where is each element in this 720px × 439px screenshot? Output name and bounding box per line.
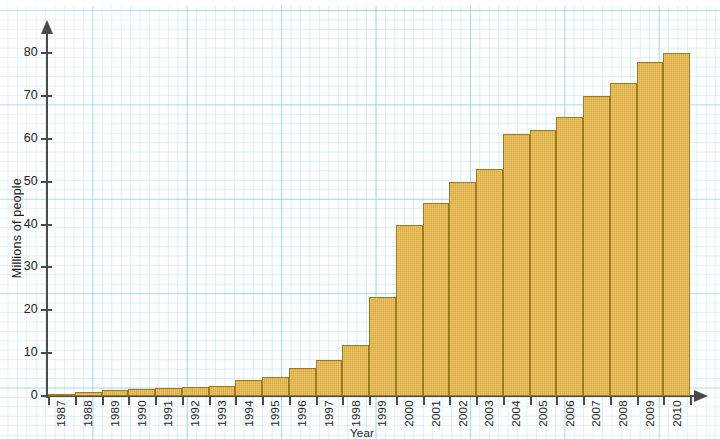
x-tick-label-1993: 1993	[216, 400, 228, 427]
bar-2000	[396, 225, 423, 397]
x-tick-2003	[476, 396, 478, 405]
y-axis-line	[46, 32, 48, 398]
bar-1992	[182, 387, 209, 396]
bar-1997	[316, 360, 343, 396]
y-tick-10	[41, 352, 52, 354]
x-tick-label-2001: 2001	[430, 400, 442, 427]
y-axis-arrow-icon	[41, 20, 53, 34]
y-tick-40	[41, 224, 52, 226]
bar-chart: Millions of people Year 0102030405060708…	[0, 0, 720, 439]
x-tick-label-1996: 1996	[296, 400, 308, 427]
x-tick-label-2004: 2004	[510, 400, 522, 427]
x-tick-1989	[102, 396, 104, 405]
bar-1990	[128, 389, 155, 396]
bar-2009	[637, 62, 664, 396]
bar-1996	[289, 368, 316, 396]
x-tick-1991	[155, 396, 157, 405]
x-tick-label-2010: 2010	[671, 400, 683, 427]
bar-1999	[369, 297, 396, 396]
bar-2002	[449, 182, 476, 396]
x-tick-label-2007: 2007	[590, 400, 602, 427]
x-tick-1994	[235, 396, 237, 405]
y-tick-30	[41, 266, 52, 268]
x-tick-2010	[663, 396, 665, 405]
x-axis-title: Year	[350, 427, 374, 439]
x-tick-label-2008: 2008	[617, 400, 629, 427]
x-axis-arrow-icon	[694, 390, 708, 402]
bar-1989	[102, 390, 129, 396]
x-tick-label-1998: 1998	[350, 400, 362, 427]
y-tick-label-70: 70	[8, 88, 38, 102]
bar-2001	[423, 203, 450, 396]
x-tick-2004	[503, 396, 505, 405]
x-tick-2001	[423, 396, 425, 405]
x-tick-2006	[556, 396, 558, 405]
x-tick-1995	[262, 396, 264, 405]
bar-1987	[48, 394, 75, 396]
bar-1993	[209, 386, 236, 396]
bar-1991	[155, 388, 182, 396]
x-tick-1988	[75, 396, 77, 405]
y-tick-label-10: 10	[8, 345, 38, 359]
y-tick-label-0: 0	[8, 388, 38, 402]
x-tick-label-1992: 1992	[189, 400, 201, 427]
y-tick-label-40: 40	[8, 217, 38, 231]
x-tick-label-1987: 1987	[55, 400, 67, 427]
bar-2007	[583, 96, 610, 396]
x-tick-1996	[289, 396, 291, 405]
x-tick-label-1990: 1990	[136, 400, 148, 427]
bar-1994	[235, 380, 262, 396]
x-tick-1999	[369, 396, 371, 405]
x-tick-1993	[209, 396, 211, 405]
x-tick-label-2002: 2002	[457, 400, 469, 427]
x-tick-label-1994: 1994	[243, 400, 255, 427]
y-tick-80	[41, 52, 52, 54]
y-tick-label-20: 20	[8, 302, 38, 316]
x-tick-1987	[48, 396, 50, 405]
bar-1988	[75, 392, 102, 396]
y-tick-50	[41, 181, 52, 183]
y-tick-20	[41, 309, 52, 311]
x-tick-2008	[610, 396, 612, 405]
bar-2003	[476, 169, 503, 396]
x-tick-label-2006: 2006	[564, 400, 576, 427]
bar-2005	[530, 130, 557, 396]
y-tick-label-50: 50	[8, 174, 38, 188]
x-tick-label-1999: 1999	[376, 400, 388, 427]
x-tick-2002	[449, 396, 451, 405]
bar-2006	[556, 117, 583, 396]
x-tick-label-1991: 1991	[162, 400, 174, 427]
x-tick-1990	[128, 396, 130, 405]
y-tick-60	[41, 138, 52, 140]
x-tick-label-1988: 1988	[82, 400, 94, 427]
y-tick-label-60: 60	[8, 131, 38, 145]
x-tick-end	[690, 396, 692, 405]
x-tick-label-1995: 1995	[269, 400, 281, 427]
x-tick-label-2000: 2000	[403, 400, 415, 427]
x-tick-2007	[583, 396, 585, 405]
x-tick-label-2003: 2003	[483, 400, 495, 427]
y-tick-label-80: 80	[8, 45, 38, 59]
x-tick-1998	[342, 396, 344, 405]
bar-1995	[262, 377, 289, 396]
y-tick-label-30: 30	[8, 259, 38, 273]
x-tick-2000	[396, 396, 398, 405]
x-tick-1992	[182, 396, 184, 405]
x-tick-label-1997: 1997	[323, 400, 335, 427]
x-tick-2005	[530, 396, 532, 405]
bar-1998	[342, 345, 369, 396]
x-tick-2009	[637, 396, 639, 405]
y-tick-70	[41, 95, 52, 97]
bar-2010	[663, 53, 690, 396]
bar-2004	[503, 134, 530, 396]
x-tick-label-2009: 2009	[644, 400, 656, 427]
bar-2008	[610, 83, 637, 396]
x-tick-label-1989: 1989	[109, 400, 121, 427]
x-tick-label-2005: 2005	[537, 400, 549, 427]
x-tick-1997	[316, 396, 318, 405]
